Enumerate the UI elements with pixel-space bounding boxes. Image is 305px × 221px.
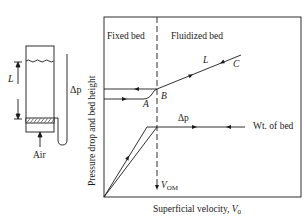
fluidized-bed-column bbox=[14, 46, 67, 147]
bed-height-curve bbox=[104, 55, 241, 101]
vom-label: VOM bbox=[161, 181, 178, 192]
x-axis-text: Superficial velocity, bbox=[153, 204, 232, 214]
vom-subscript: OM bbox=[167, 184, 178, 192]
fixed-bed-label: Fixed bed bbox=[107, 32, 145, 42]
point-b-label: B bbox=[161, 92, 167, 102]
pressure-drop-curve-label: Δp bbox=[178, 114, 189, 124]
y-axis-label: Pressure drop and bed height bbox=[88, 76, 98, 186]
pressure-symbol: Δp bbox=[70, 84, 81, 95]
manometer-pressure-label: Δp bbox=[70, 85, 81, 95]
plot-frame bbox=[104, 17, 301, 197]
weight-of-bed-label: Wt. of bed bbox=[253, 122, 293, 132]
diagram-canvas bbox=[0, 0, 305, 221]
minimum-fluidization-line bbox=[155, 17, 159, 190]
point-c-label: C bbox=[233, 60, 239, 70]
bed-length-label: L bbox=[8, 74, 14, 84]
bed-height-curve-label: L bbox=[203, 56, 208, 66]
air-inlet-label: Air bbox=[33, 151, 46, 161]
x-axis-label: Superficial velocity, V0 bbox=[153, 205, 241, 216]
fluidized-bed-label: Fluidized bed bbox=[171, 32, 223, 42]
x-axis-subscript: 0 bbox=[238, 208, 242, 216]
point-a-label: A bbox=[143, 100, 149, 110]
